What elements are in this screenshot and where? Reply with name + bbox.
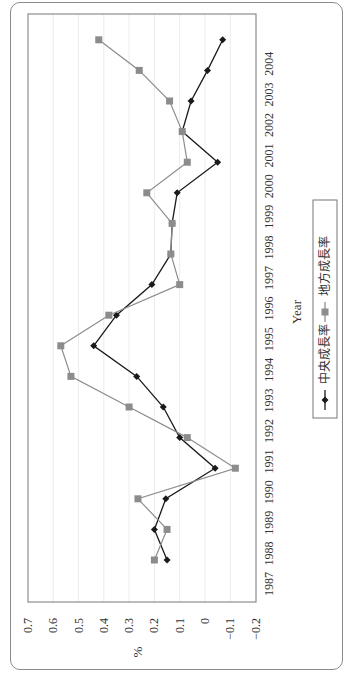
year-tick-label: 1999 bbox=[262, 205, 276, 229]
square-marker-icon bbox=[95, 36, 102, 43]
year-tick-label: 1994 bbox=[262, 358, 276, 382]
square-marker-icon bbox=[184, 434, 191, 441]
square-marker-icon bbox=[167, 251, 174, 258]
year-tick-label: 1998 bbox=[262, 235, 276, 259]
year-tick-label: 1987 bbox=[262, 572, 276, 596]
square-marker-icon bbox=[143, 189, 150, 196]
year-tick-label: 1996 bbox=[262, 297, 276, 321]
year-tick-label: 1990 bbox=[262, 480, 276, 504]
diamond-marker-icon bbox=[151, 526, 158, 533]
year-tick-label: 2004 bbox=[262, 52, 276, 76]
square-marker-icon bbox=[67, 373, 74, 380]
square-marker-icon bbox=[169, 220, 176, 227]
legend-label: 中央成長率 bbox=[317, 324, 332, 384]
year-tick-label: 1989 bbox=[262, 511, 276, 535]
value-axis-label: % bbox=[130, 646, 145, 657]
diamond-marker-icon bbox=[219, 36, 226, 43]
square-marker-icon bbox=[322, 309, 329, 316]
square-marker-icon bbox=[232, 465, 239, 472]
value-tick-label: 0.6 bbox=[46, 618, 60, 633]
square-marker-icon bbox=[57, 342, 64, 349]
value-tick-label: −0.1 bbox=[223, 618, 237, 640]
year-tick-label: 2003 bbox=[262, 82, 276, 106]
year-tick-label: 1997 bbox=[262, 266, 276, 290]
year-tick-label: 1991 bbox=[262, 450, 276, 474]
year-tick-label: 1988 bbox=[262, 541, 276, 565]
year-tick-label: 1992 bbox=[262, 419, 276, 443]
square-marker-icon bbox=[166, 98, 173, 105]
value-tick-label: 0.1 bbox=[173, 618, 187, 633]
square-marker-icon bbox=[134, 495, 141, 502]
year-tick-label: 1995 bbox=[262, 327, 276, 351]
value-tick-label: −0.2 bbox=[249, 618, 263, 640]
square-marker-icon bbox=[184, 159, 191, 166]
year-tick-label: 2001 bbox=[262, 144, 276, 168]
square-marker-icon bbox=[136, 67, 143, 74]
value-tick-label: 0.4 bbox=[97, 618, 111, 633]
diamond-marker-icon bbox=[162, 495, 169, 502]
square-marker-icon bbox=[105, 312, 112, 319]
square-marker-icon bbox=[151, 557, 158, 564]
square-marker-icon bbox=[126, 404, 133, 411]
series-local-growth bbox=[57, 36, 239, 563]
year-axis-label: Year bbox=[289, 299, 304, 324]
diamond-marker-icon bbox=[188, 98, 195, 105]
year-tick-label: 1993 bbox=[262, 388, 276, 412]
series-lines bbox=[57, 36, 239, 563]
series-central-growth bbox=[90, 36, 226, 563]
value-tick-label: 0.5 bbox=[72, 618, 86, 633]
value-axis-ticks: 0.70.60.50.40.30.20.10−0.1−0.2 bbox=[21, 618, 263, 640]
value-tick-label: 0.7 bbox=[21, 618, 35, 633]
gridlines bbox=[53, 14, 230, 602]
legend-label: 地方成長率 bbox=[317, 236, 332, 296]
value-tick-label: 0 bbox=[198, 618, 212, 624]
line-chart: 0.70.60.50.40.30.20.10−0.1−0.2 198719881… bbox=[0, 0, 347, 676]
plot-area bbox=[28, 14, 256, 602]
square-marker-icon bbox=[176, 281, 183, 288]
year-axis-ticks: 1987198819891990199119921993199419951996… bbox=[262, 52, 276, 596]
year-tick-label: 2000 bbox=[262, 174, 276, 198]
value-tick-label: 0.3 bbox=[122, 618, 136, 633]
diamond-marker-icon bbox=[164, 557, 171, 564]
legend: 中央成長率地方成長率 bbox=[313, 200, 337, 418]
square-marker-icon bbox=[164, 526, 171, 533]
year-tick-label: 2002 bbox=[262, 113, 276, 137]
value-tick-label: 0.2 bbox=[147, 618, 161, 633]
square-marker-icon bbox=[179, 128, 186, 135]
